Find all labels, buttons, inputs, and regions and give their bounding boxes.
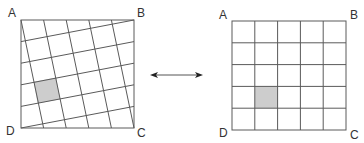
right-square-outline — [232, 21, 346, 130]
right-label-c: C — [350, 128, 359, 142]
diagram-canvas: A B C D A B C D — [0, 0, 364, 143]
right-shaded-cell — [255, 86, 278, 108]
left-label-a: A — [8, 6, 16, 20]
left-label-d: D — [6, 124, 15, 138]
right-label-a: A — [219, 8, 227, 22]
right-figure: A B C D — [219, 8, 359, 142]
right-label-b: B — [350, 8, 358, 22]
right-grid — [232, 21, 346, 130]
left-label-c: C — [137, 126, 146, 140]
left-figure: A B C D — [6, 6, 146, 140]
left-label-b: B — [137, 6, 145, 20]
left-tilted-grid — [21, 20, 134, 128]
double-arrow-icon — [150, 72, 203, 78]
right-label-d: D — [219, 126, 228, 140]
